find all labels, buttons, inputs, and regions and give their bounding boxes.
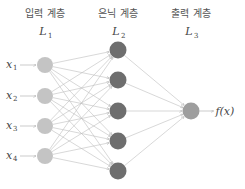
- input-label-subscript-3: 3: [13, 125, 17, 133]
- edge-hidden-5-output: [125, 117, 184, 166]
- edge-input-1-hidden-5: [50, 72, 113, 164]
- input-label-4: x: [6, 149, 13, 162]
- edge-input-4-hidden-1: [50, 57, 113, 149]
- input-node-1: [37, 57, 53, 73]
- hidden-node-5: [110, 163, 127, 180]
- input-label-subscript-2: 2: [13, 95, 17, 103]
- input-node-4: [37, 148, 53, 164]
- layer-title-2: 은닉 계층: [98, 8, 137, 19]
- edge-input-4-hidden-4: [53, 143, 109, 155]
- hidden-node-3: [110, 103, 127, 120]
- hidden-node-2: [110, 72, 127, 89]
- input-label-2: x: [6, 89, 13, 102]
- hidden-node-1: [110, 42, 127, 59]
- input-node-2: [37, 88, 53, 104]
- input-label-1: x: [6, 58, 13, 71]
- edge-input-1-hidden-4: [51, 71, 112, 135]
- edge-input-3-hidden-1: [51, 56, 112, 120]
- layer-label-1: L: [38, 25, 46, 38]
- edge-hidden-1-output: [125, 55, 185, 105]
- input-label-subscript-1: 1: [13, 64, 17, 72]
- layer-label-subscript-2: 2: [121, 32, 125, 40]
- edge-input-1-hidden-1: [53, 52, 109, 64]
- edge-input-3-hidden-5: [52, 130, 111, 166]
- layer-label-subscript-1: 1: [48, 32, 52, 40]
- network-graph: 입력 계층L1은닉 계층L2출력 계층L3x1x2x3x4f(x): [0, 0, 245, 189]
- edge-hidden-2-output: [126, 83, 183, 107]
- input-label-3: x: [6, 119, 13, 132]
- input-node-3: [37, 118, 53, 134]
- input-label-subscript-4: 4: [13, 155, 18, 163]
- edge-input-3-hidden-4: [53, 128, 109, 140]
- edge-input-4-hidden-2: [51, 86, 112, 150]
- output-label: f(x): [215, 105, 235, 118]
- edge-hidden-4-output: [126, 114, 183, 137]
- layer-label-subscript-3: 3: [194, 32, 198, 40]
- neural-network-diagram: 입력 계층L1은닉 계층L2출력 계층L3x1x2x3x4f(x): [0, 0, 245, 189]
- edge-input-4-hidden-5: [53, 158, 109, 170]
- output-node: [183, 103, 200, 120]
- edge-input-2-hidden-1: [52, 55, 111, 92]
- layer-title-1: 입력 계층: [25, 7, 64, 19]
- layer-title-3: 출력 계층: [171, 8, 210, 19]
- layer-label-2: L: [111, 25, 119, 38]
- layer-label-3: L: [184, 25, 192, 38]
- hidden-node-4: [110, 133, 127, 150]
